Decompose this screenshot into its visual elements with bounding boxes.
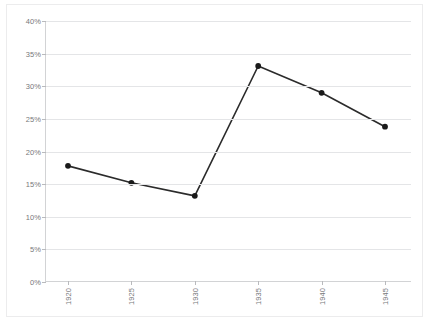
y-axis-label: 15% — [26, 180, 41, 189]
y-axis-tick — [42, 249, 46, 250]
y-gridline — [46, 281, 411, 282]
y-axis-tick — [42, 184, 46, 185]
data-point-marker — [255, 63, 261, 69]
chart-frame: 0%5%10%15%20%25%30%35%40%192019251930193… — [6, 4, 423, 317]
y-axis-tick — [42, 217, 46, 218]
y-gridline — [46, 86, 411, 87]
y-axis-label: 10% — [26, 212, 41, 221]
x-axis-label: 1930 — [191, 288, 200, 305]
x-axis-label: 1925 — [127, 288, 136, 305]
x-axis-tick — [258, 281, 259, 285]
y-axis-tick — [42, 152, 46, 153]
x-axis-label: 1945 — [381, 288, 390, 305]
x-axis-tick — [385, 281, 386, 285]
x-axis-tick — [195, 281, 196, 285]
x-axis-label: 1920 — [64, 288, 73, 305]
y-axis-tick — [42, 119, 46, 120]
data-point-marker — [192, 193, 198, 199]
x-axis-label: 1940 — [318, 288, 327, 305]
x-axis-tick — [131, 281, 132, 285]
data-point-marker — [65, 163, 71, 169]
y-axis-label: 40% — [26, 17, 41, 26]
plot-area: 0%5%10%15%20%25%30%35%40%192019251930193… — [45, 21, 411, 282]
y-axis-tick — [42, 282, 46, 283]
y-axis-tick — [42, 54, 46, 55]
y-axis-label: 0% — [30, 278, 41, 287]
y-gridline — [46, 21, 411, 22]
y-axis-label: 20% — [26, 147, 41, 156]
y-gridline — [46, 217, 411, 218]
y-axis-label: 35% — [26, 49, 41, 58]
y-axis-tick — [42, 21, 46, 22]
y-gridline — [46, 152, 411, 153]
y-gridline — [46, 54, 411, 55]
y-gridline — [46, 119, 411, 120]
y-axis-label: 25% — [26, 114, 41, 123]
y-axis-tick — [42, 86, 46, 87]
y-gridline — [46, 184, 411, 185]
x-axis-tick — [322, 281, 323, 285]
x-axis-tick — [68, 281, 69, 285]
x-axis-label: 1935 — [254, 288, 263, 305]
data-point-marker — [382, 124, 388, 130]
y-gridline — [46, 249, 411, 250]
y-axis-label: 30% — [26, 82, 41, 91]
data-point-marker — [319, 90, 325, 96]
y-axis-label: 5% — [30, 245, 41, 254]
